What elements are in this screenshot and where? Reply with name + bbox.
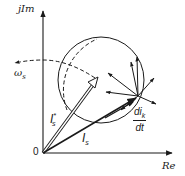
dashed-trajectory-arc [63,39,97,110]
real-axis-label: Re [162,161,175,171]
is-vector [43,98,136,153]
omega-rotation-arc [15,60,95,78]
is-label: Is [82,132,89,146]
is-secondary-arrow [105,102,133,118]
imaginary-axis-label: jIm [18,4,35,14]
dik-dt-label: dik dt [133,106,146,133]
phasor-diagram [0,0,185,176]
is-star-label: I*s [50,112,56,127]
omega-s-label: ωs [14,68,26,81]
origin-label: 0 [33,147,39,157]
current-limit-circle [58,37,144,123]
dik-dt-arrow-fan [106,57,156,110]
axes [43,11,172,153]
